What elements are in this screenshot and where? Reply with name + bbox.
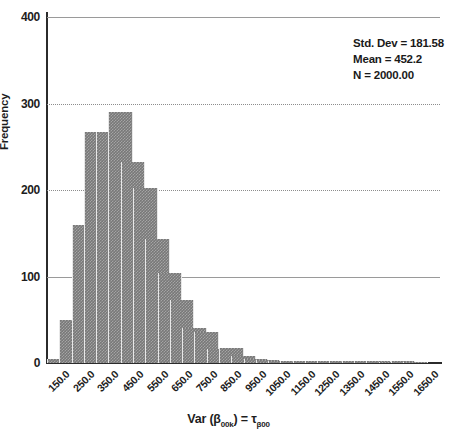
y-axis-title: Frequency xyxy=(0,94,10,150)
x-tick-label-1050-0: 1050.0 xyxy=(263,368,293,398)
x-tick-label-250-0: 250.0 xyxy=(70,368,96,394)
x-tick-label-1650-0: 1650.0 xyxy=(410,368,440,398)
histogram-bar xyxy=(403,362,428,364)
x-tick-label-350-0: 350.0 xyxy=(95,368,121,394)
gridline-400 xyxy=(47,17,440,18)
x-axis-title-equals: = xyxy=(238,412,252,426)
gridline-300 xyxy=(47,104,440,105)
x-tick-label-1450-0: 1450.0 xyxy=(361,368,391,398)
histogram-figure: Frequency 0100200300400 150.0250.0350.04… xyxy=(0,0,457,437)
beta-symbol: β xyxy=(213,412,220,426)
x-tick-label-450-0: 450.0 xyxy=(119,368,145,394)
x-axis-title-prefix: Var ( xyxy=(187,412,213,426)
x-tick-label-1550-0: 1550.0 xyxy=(386,368,416,398)
mean-label: Mean = 452.2 xyxy=(353,52,444,68)
x-tick-label-750-0: 750.0 xyxy=(193,368,219,394)
x-tick-label-1350-0: 1350.0 xyxy=(337,368,367,398)
y-tick-label-400: 400 xyxy=(6,10,40,24)
tau-subscript: β00 xyxy=(257,420,270,429)
x-axis-title: Var (β00k) = τβ00 xyxy=(0,412,457,429)
x-tick-label-650-0: 650.0 xyxy=(169,368,195,394)
n-label: N = 2000.00 xyxy=(353,68,444,84)
statistics-annotation: Std. Dev = 181.58 Mean = 452.2 N = 2000.… xyxy=(353,36,444,84)
x-tick-label-150-0: 150.0 xyxy=(46,368,72,394)
x-tick-label-850-0: 850.0 xyxy=(218,368,244,394)
y-tick-label-100: 100 xyxy=(6,270,40,284)
y-tick-label-0: 0 xyxy=(6,356,40,370)
x-tick-label-550-0: 550.0 xyxy=(144,368,170,394)
y-tick-label-200: 200 xyxy=(6,183,40,197)
x-tick-label-1150-0: 1150.0 xyxy=(288,368,318,398)
beta-subscript: 00k xyxy=(221,420,234,429)
x-tick-label-1250-0: 1250.0 xyxy=(312,368,342,398)
y-tick-label-300: 300 xyxy=(6,97,40,111)
std-dev-label: Std. Dev = 181.58 xyxy=(353,36,444,52)
